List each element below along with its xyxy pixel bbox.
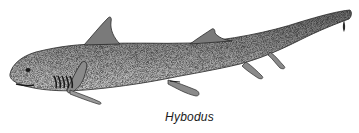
figure-caption: Hybodus (0, 110, 359, 124)
figure: Hybodus (0, 0, 359, 133)
pelvic-fin (168, 80, 199, 96)
anal-fin (242, 62, 263, 79)
second-dorsal-fin (190, 29, 232, 44)
first-dorsal-fin (84, 17, 120, 45)
hybodus-shark-illustration (0, 0, 359, 108)
shark-body (10, 10, 352, 91)
pectoral-fin-lower (70, 90, 101, 104)
eye (25, 68, 30, 72)
caudal-lobe (268, 52, 285, 69)
tail-tip (343, 20, 345, 32)
